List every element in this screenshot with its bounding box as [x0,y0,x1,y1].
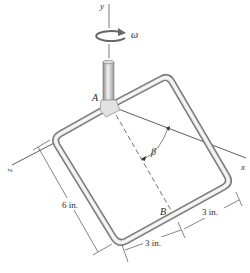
beta-label: β [150,146,156,157]
dimension-3in-label-2: 3 in. [202,207,218,217]
omega-label: ω [131,29,138,40]
z-axis-label: z [4,168,14,173]
point-a-label: A [91,92,99,103]
point-b-label: B [160,206,166,217]
x-axis-label: x [240,162,245,172]
z-axis [12,141,58,165]
dimension-3in-bottom [122,192,242,262]
dimension-6in-label: 6 in. [62,200,78,210]
y-axis-label: y [99,1,104,11]
rotating-frame-diagram: y ω x z β A B 6 in. [0,0,250,273]
dimension-3in-label-1: 3 in. [145,238,161,248]
rotation-arrow-icon [96,28,126,41]
x-axis [113,107,246,158]
dimension-6in [33,140,112,255]
vertical-shaft [100,60,120,117]
